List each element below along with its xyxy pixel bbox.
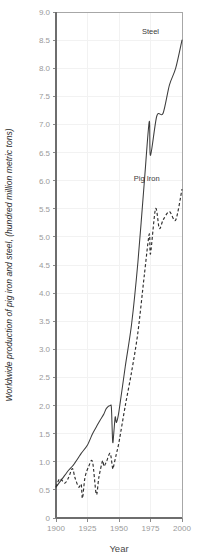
chart-background <box>0 0 204 560</box>
x-axis-title: Year <box>109 543 128 554</box>
y-tick-label: 2.5 <box>39 373 51 382</box>
x-tick-label: 1900 <box>47 524 65 533</box>
series-label-pig-iron: Pig Iron <box>134 174 160 183</box>
y-tick-label: 4.0 <box>39 289 51 298</box>
y-tick-label: 0.5 <box>39 486 51 495</box>
y-tick-label: 8.5 <box>39 36 51 45</box>
y-tick-label: 6.5 <box>39 149 51 158</box>
y-tick-label: 1.0 <box>39 458 51 467</box>
y-tick-label: 1.5 <box>39 430 51 439</box>
y-tick-label: 9.0 <box>39 8 51 17</box>
chart-container: 00.51.01.52.02.53.03.54.04.55.05.56.06.5… <box>0 0 204 560</box>
x-tick-label: 1975 <box>142 524 160 533</box>
y-tick-label: 5.5 <box>39 205 51 214</box>
y-tick-label: 7.0 <box>39 120 51 129</box>
y-tick-label: 6.0 <box>39 177 51 186</box>
y-tick-label: 7.5 <box>39 92 51 101</box>
series-label-steel: Steel <box>142 27 159 36</box>
x-tick-label: 1950 <box>110 524 128 533</box>
y-tick-label: 5.0 <box>39 233 51 242</box>
y-tick-label: 3.5 <box>39 317 51 326</box>
x-tick-label: 1925 <box>79 524 97 533</box>
y-axis-title: Worldwide production of pig iron and ste… <box>4 128 14 401</box>
y-tick-label: 3.0 <box>39 345 51 354</box>
y-tick-label: 8.0 <box>39 64 51 73</box>
production-line-chart: 00.51.01.52.02.53.03.54.04.55.05.56.06.5… <box>0 0 204 560</box>
y-tick-label: 2.0 <box>39 402 51 411</box>
x-tick-label: 2000 <box>173 524 191 533</box>
y-tick-label: 0 <box>46 514 51 523</box>
y-tick-label: 4.5 <box>39 261 51 270</box>
